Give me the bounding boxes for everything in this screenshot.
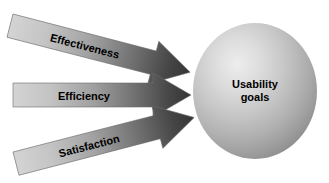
diagram-canvas: Usability goals Effectiveness Efficiency…	[0, 0, 329, 183]
usability-goals-sphere: Usability goals	[193, 23, 317, 159]
arrow-satisfaction: Satisfaction	[10, 96, 199, 183]
sphere-label-line-1: Usability	[232, 78, 279, 90]
arrow-efficiency-label: Efficiency	[58, 90, 111, 102]
usability-goals-diagram: Usability goals Effectiveness Efficiency…	[0, 0, 329, 183]
arrow-effectiveness: Effectiveness	[4, 4, 195, 93]
sphere-label-line-2: goals	[241, 91, 270, 103]
